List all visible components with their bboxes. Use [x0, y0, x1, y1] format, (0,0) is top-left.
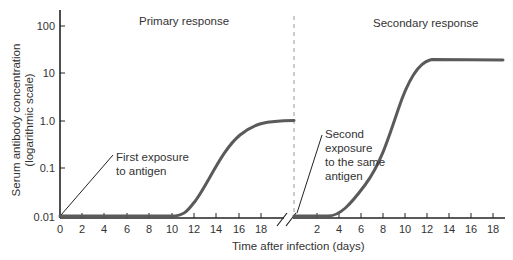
svg-text:10: 10	[43, 67, 55, 79]
annotation-pointer-second	[297, 135, 322, 213]
svg-text:1.0: 1.0	[40, 115, 55, 127]
svg-text:to antigen: to antigen	[116, 165, 167, 177]
svg-text:6: 6	[124, 223, 130, 235]
primary-response-curve	[60, 121, 294, 217]
svg-text:to the same: to the same	[325, 156, 385, 168]
svg-text:100: 100	[37, 20, 55, 32]
annotation-second-exposure: Second exposure to the same antigen	[325, 128, 385, 182]
svg-text:14: 14	[210, 223, 222, 235]
svg-text:0.01: 0.01	[34, 211, 55, 223]
svg-text:4: 4	[101, 223, 107, 235]
x-tick-labels-secondary: 2 4 6 8 10 12 14 16 18	[314, 223, 499, 235]
svg-text:12: 12	[421, 223, 433, 235]
x-tick-labels-primary: 0 2 4 6 8 10 12 14 16 18	[57, 223, 267, 235]
y-axis-title: Serum antibody concentration (logarithmi…	[10, 44, 35, 197]
svg-text:First exposure: First exposure	[116, 151, 189, 163]
secondary-response-label: Secondary response	[373, 17, 478, 29]
svg-text:Serum antibody concentration: Serum antibody concentration	[10, 44, 22, 197]
antibody-response-chart: 100 10 1.0 0.1 0.01 0 2 4 6 8 10 12 14 1…	[0, 0, 513, 260]
annotation-first-exposure: First exposure to antigen	[116, 151, 189, 177]
svg-text:18: 18	[487, 223, 499, 235]
svg-text:(logarithmic scale): (logarithmic scale)	[23, 73, 35, 166]
svg-text:8: 8	[146, 223, 152, 235]
x-axis-title: Time after infection (days)	[232, 240, 365, 252]
primary-response-label: Primary response	[139, 15, 229, 27]
svg-text:antigen: antigen	[325, 170, 363, 182]
svg-text:12: 12	[188, 223, 200, 235]
svg-text:14: 14	[443, 223, 455, 235]
svg-text:16: 16	[465, 223, 477, 235]
svg-text:10: 10	[399, 223, 411, 235]
svg-text:2: 2	[79, 223, 85, 235]
svg-text:18: 18	[255, 223, 267, 235]
annotation-pointer-first	[61, 155, 113, 215]
svg-text:8: 8	[380, 223, 386, 235]
svg-text:16: 16	[233, 223, 245, 235]
svg-text:Second: Second	[325, 128, 364, 140]
svg-text:exposure: exposure	[325, 142, 372, 154]
svg-text:0.1: 0.1	[40, 162, 55, 174]
svg-text:6: 6	[358, 223, 364, 235]
svg-text:4: 4	[336, 223, 342, 235]
y-tick-labels: 100 10 1.0 0.1 0.01	[34, 20, 55, 223]
svg-text:2: 2	[314, 223, 320, 235]
axis-break-mark	[277, 213, 287, 226]
svg-text:0: 0	[57, 223, 63, 235]
svg-text:10: 10	[166, 223, 178, 235]
